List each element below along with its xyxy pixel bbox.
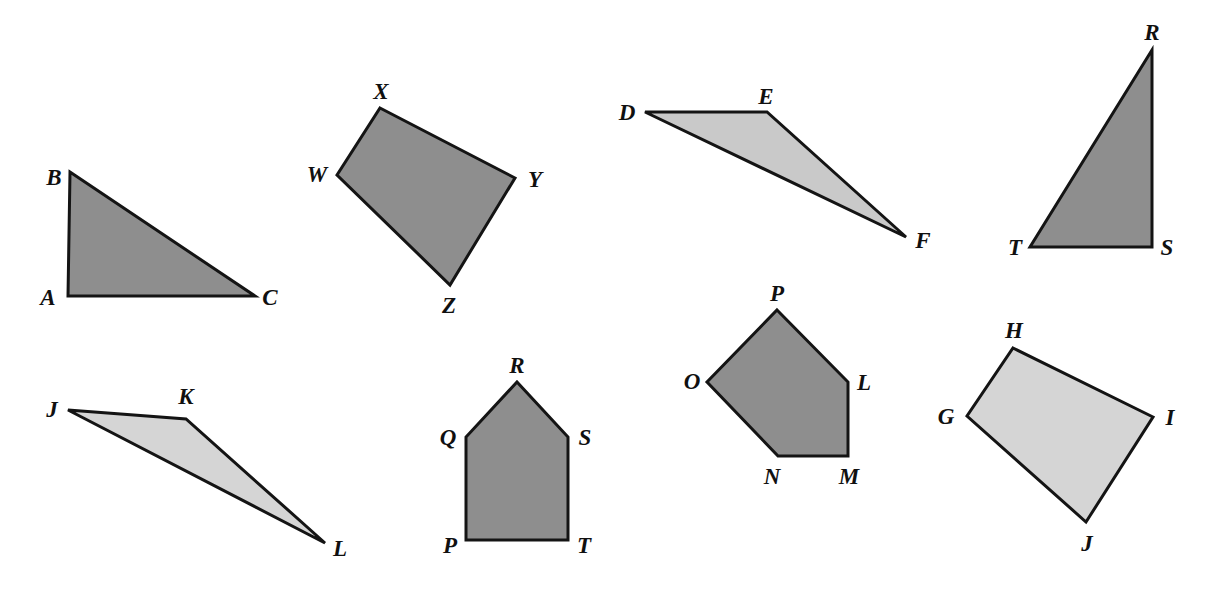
vertex-label-quadrilateral-ghij-i: I: [1166, 406, 1175, 429]
vertex-label-triangle-abc-a: A: [40, 286, 55, 309]
quadrilateral-wxyz: [337, 108, 515, 285]
vertex-label-pentagon-lmnop-n: N: [764, 465, 781, 488]
vertex-label-triangle-rst-s: S: [1161, 236, 1174, 259]
vertex-label-triangle-jkl-k: K: [178, 385, 193, 408]
vertex-label-pentagon-lmnop-m: M: [839, 465, 859, 488]
vertex-label-quadrilateral-wxyz-w: W: [307, 163, 327, 186]
triangle-jkl: [68, 410, 325, 543]
vertex-label-pentagon-lmnop-p: P: [770, 282, 784, 305]
vertex-label-triangle-abc-b: B: [46, 166, 61, 189]
vertex-label-triangle-rst-r: R: [1144, 21, 1159, 44]
vertex-label-triangle-def-e: E: [758, 85, 773, 108]
vertex-label-triangle-abc-c: C: [262, 286, 277, 309]
vertex-label-quadrilateral-wxyz-x: X: [373, 80, 388, 103]
vertex-label-quadrilateral-ghij-g: G: [938, 405, 955, 428]
vertex-label-triangle-rst-t: T: [1008, 236, 1022, 259]
pentagon-pqrst: [466, 382, 568, 540]
vertex-label-quadrilateral-ghij-h: H: [1005, 319, 1023, 342]
vertex-label-pentagon-lmnop-o: O: [684, 370, 701, 393]
vertex-label-triangle-jkl-j: J: [46, 398, 58, 421]
vertex-label-quadrilateral-wxyz-z: Z: [442, 294, 456, 317]
triangle-def: [645, 112, 906, 237]
worksheet-page: ABCWXYZDEFRSTJKLPQRSTLMNOPGHIJ: [0, 0, 1214, 592]
triangle-abc: [68, 172, 255, 296]
vertex-label-pentagon-pqrst-p: P: [443, 534, 457, 557]
vertex-label-triangle-def-f: F: [915, 229, 930, 252]
quadrilateral-ghij: [967, 348, 1153, 522]
triangle-rst: [1030, 50, 1152, 247]
vertex-label-triangle-jkl-l: L: [333, 537, 347, 560]
vertex-label-pentagon-pqrst-t: T: [577, 534, 591, 557]
vertex-label-pentagon-pqrst-s: S: [579, 426, 592, 449]
vertex-label-quadrilateral-ghij-j: J: [1081, 532, 1093, 555]
vertex-label-pentagon-lmnop-l: L: [857, 371, 871, 394]
vertex-label-quadrilateral-wxyz-y: Y: [528, 168, 542, 191]
vertex-label-pentagon-pqrst-q: Q: [440, 426, 457, 449]
pentagon-lmnop: [707, 310, 848, 456]
figure-canvas: [0, 0, 1214, 592]
vertex-label-pentagon-pqrst-r: R: [509, 354, 524, 377]
vertex-label-triangle-def-d: D: [619, 101, 636, 124]
